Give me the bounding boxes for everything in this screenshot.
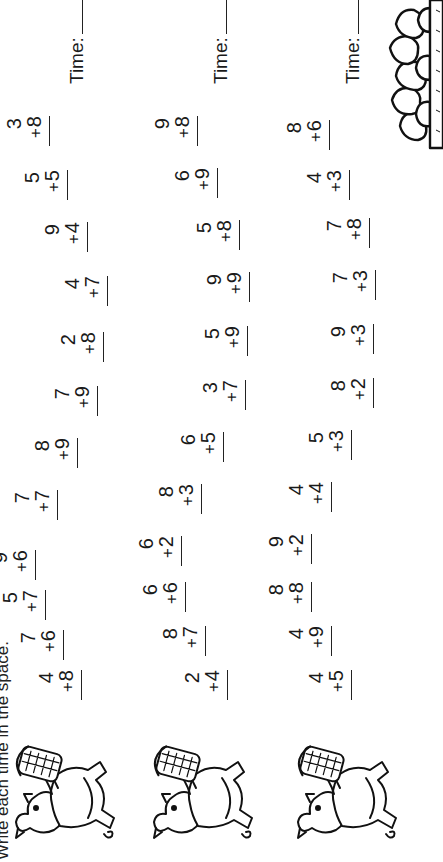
addition-worksheet: Write each time in the space. [0,0,443,862]
page-viewport: Write each time in the space. [0,0,443,862]
problem-r3-9: 7+3 [330,270,376,300]
problem-r2-9: 9+9 [204,272,250,302]
problem-r2-11: 6+9 [172,168,218,198]
stone-wall-icon [378,0,443,150]
problem-r3-8: 9+3 [328,324,374,354]
problem-r2-10: 5+8 [194,220,240,250]
problem-r1-5: 7+7 [12,490,58,520]
problem-r2-6: 6+5 [178,432,224,462]
time-answer-line[interactable] [66,0,83,34]
time-field-r2[interactable]: Time: [210,0,232,84]
time-field-r3[interactable]: Time: [342,0,364,84]
problem-r3-10: 7+8 [324,218,370,248]
problem-r2-12: 9+8 [152,116,198,146]
problem-r1-8: 2+8 [58,332,104,362]
pig-with-basket-icon [148,738,266,858]
problem-r1-7: 7+9 [52,386,98,416]
pig-with-basket-icon [292,738,410,858]
problem-r2-2: 8+7 [160,626,206,656]
problem-r1-1: 4+8 [36,670,82,700]
problem-r2-8: 5+9 [202,326,248,356]
pig-with-basket-icon [10,738,128,858]
problem-r1-11: 5+5 [22,170,68,200]
problem-r2-4: 6+2 [136,536,182,566]
problem-r1-9: 4+7 [62,276,108,306]
problem-r1-12: 3+8 [4,116,50,146]
problem-r2-1: 2+4 [182,670,228,700]
problem-r3-12: 8+6 [284,120,330,150]
problem-r2-7: 3+7 [200,380,246,410]
problem-r3-11: 4+3 [304,170,350,200]
problem-r3-7: 8+2 [328,378,374,408]
problem-r3-5: 4+4 [286,482,332,512]
problem-r3-4: 9+2 [266,534,312,564]
problem-r1-2: 7+6 [18,630,64,660]
problem-r1-4: 9+6 [0,550,36,580]
problem-r2-5: 8+3 [156,484,202,514]
time-field-r1[interactable]: Time: [66,0,88,84]
problem-r1-3: 5+7 [0,590,46,620]
time-answer-line[interactable] [210,0,227,34]
worksheet-row-1: 4+8 7+6 5+7 9+6 7+7 8+9 7+9 2+8 4+7 9+4 … [0,0,130,862]
problem-r3-1: 4+5 [306,670,352,700]
problem-r3-6: 5+3 [306,430,352,460]
problem-r1-6: 8+9 [32,438,78,468]
worksheet-row-2: 2+4 8+7 6+6 6+2 8+3 6+5 3+7 5+9 9+9 5+8 … [148,0,278,862]
problem-r3-3: 8+8 [266,582,312,612]
problem-r3-2: 4+9 [286,626,332,656]
time-answer-line[interactable] [342,0,359,34]
problem-r2-3: 6+6 [140,582,186,612]
problem-r1-10: 9+4 [42,222,88,252]
